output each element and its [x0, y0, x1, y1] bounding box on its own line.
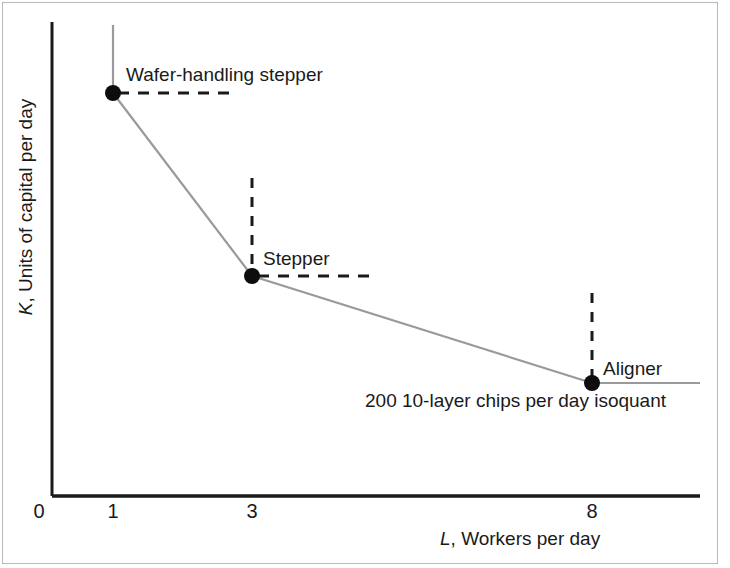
chart-canvas [0, 0, 730, 568]
annotation-aligner: Aligner [603, 358, 662, 380]
y-axis-label-text: K, Units of capital per day [15, 99, 36, 316]
isoquant-segment-1 [113, 93, 252, 276]
y-axis-label: K, Units of capital per day [15, 47, 37, 367]
data-point-aligner[interactable] [584, 375, 600, 391]
annotation-stepper: Stepper [263, 248, 330, 270]
data-point-stepper[interactable] [244, 268, 260, 284]
x-tick-label-3: 3 [241, 500, 263, 523]
x-axis-label: L, Workers per day [440, 528, 600, 550]
y-axis-label-suffix: , Units of capital per day [15, 99, 36, 303]
x-axis-label-suffix: , Workers per day [451, 528, 601, 549]
x-tick-label-0: 0 [28, 500, 50, 523]
y-axis-variable: K [15, 303, 36, 316]
x-tick-label-1: 1 [102, 500, 124, 523]
isoquant-figure: K, Units of capital per day L, Workers p… [0, 0, 730, 568]
isoquant-segment-2 [252, 276, 592, 383]
annotation-wafer-handling-stepper: Wafer-handling stepper [126, 64, 323, 86]
x-axis-variable: L [440, 528, 451, 549]
annotation-isoquant-caption: 200 10-layer chips per day isoquant [365, 390, 666, 412]
data-point-wafer-handling-stepper[interactable] [105, 85, 121, 101]
x-tick-label-8: 8 [581, 500, 603, 523]
